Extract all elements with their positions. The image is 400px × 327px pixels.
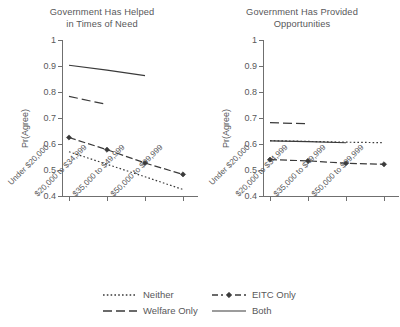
data-point-marker (381, 162, 386, 167)
legend-marker-diamond (226, 292, 232, 298)
legend-label-welfare-only: Welfare Only (143, 305, 198, 316)
legend-label-eitc-only: EITC Only (252, 289, 296, 300)
legend-swatch-neither (103, 290, 139, 300)
legend: Neither Welfare Only EITC Only Both (0, 284, 400, 327)
legend-swatch-both (212, 306, 248, 316)
series-line-both (69, 65, 145, 75)
data-point-marker (267, 157, 272, 162)
data-point-marker (305, 158, 310, 163)
legend-swatch-eitc-only (212, 290, 248, 300)
data-point-marker (66, 135, 71, 140)
legend-label-both: Both (252, 305, 272, 316)
plot-area-right (200, 0, 400, 285)
legend-label-neither: Neither (143, 289, 174, 300)
data-point-marker (142, 160, 147, 165)
panel-government-has-provided-opportunities: Government Has Provided Opportunities Pr… (200, 0, 400, 285)
legend-swatch-welfare-only (103, 306, 139, 316)
series-line-welfare-only (270, 123, 308, 124)
series-line-eitc-only (270, 160, 384, 165)
data-point-marker (104, 147, 109, 152)
series-line-welfare-only (69, 96, 107, 104)
plot-area-left (0, 0, 200, 285)
data-point-marker (343, 161, 348, 166)
data-point-marker (180, 172, 185, 177)
panel-government-has-helped: Government Has Helped in Times of Need P… (0, 0, 200, 285)
figure: Government Has Helped in Times of Need P… (0, 0, 400, 327)
series-line-neither (69, 152, 183, 190)
series-line-eitc-only (69, 138, 183, 175)
